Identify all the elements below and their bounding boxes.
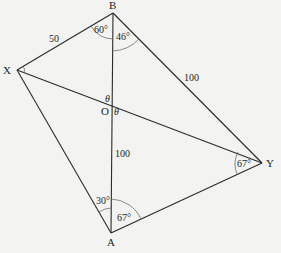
vertex-label-y: Y (266, 157, 274, 169)
edge-xa (17, 70, 111, 233)
length-labels: 50 100 100 (49, 33, 199, 159)
angle-label-xao: 30° (96, 195, 110, 206)
angle-label-theta-lower: θ (114, 106, 119, 117)
edge-xy (17, 70, 262, 163)
angle-label-xbo: 60° (94, 24, 108, 35)
vertex-label-o: O (101, 105, 109, 117)
edge-by (113, 13, 262, 163)
angle-label-xya: 67° (237, 158, 251, 169)
length-label-xb: 50 (49, 33, 59, 44)
vertex-labels: B X O A Y (3, 0, 274, 248)
angle-labels: 60° 46° 30° 67° 67° θ θ (94, 24, 251, 223)
vertex-label-a: A (107, 236, 115, 248)
edge-ba (111, 13, 113, 233)
vertex-label-x: X (3, 64, 11, 76)
edges (17, 13, 262, 233)
angle-label-theta-upper: θ (105, 93, 110, 104)
angle-arcs (23, 26, 238, 219)
angle-label-oby: 46° (116, 31, 130, 42)
arc-angle-xay (99, 208, 111, 212)
length-label-by: 100 (184, 72, 199, 83)
angle-label-oay: 67° (117, 212, 131, 223)
geometry-diagram: B X O A Y 50 100 100 60° 46° 30° 67° 67°… (0, 0, 281, 253)
vertex-label-b: B (109, 0, 116, 11)
length-label-oa: 100 (115, 148, 130, 159)
edge-ay (111, 163, 262, 233)
edge-xb (17, 13, 113, 70)
